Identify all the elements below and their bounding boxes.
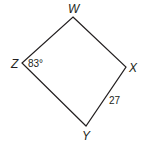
vertex-label-x: X [128, 61, 138, 75]
quadrilateral-diagram: W X Y Z 83° 27 [0, 0, 151, 147]
vertex-label-z: Z [10, 57, 19, 71]
quadrilateral-wxyz [22, 17, 126, 126]
vertex-label-w: W [68, 2, 81, 16]
vertex-label-y: Y [82, 129, 91, 143]
angle-z-label: 83° [28, 58, 43, 69]
side-xy-label: 27 [109, 95, 121, 106]
